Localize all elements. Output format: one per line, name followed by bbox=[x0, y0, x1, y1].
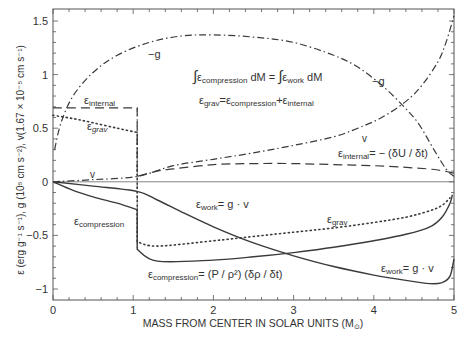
y-tick-label: −1 bbox=[35, 283, 48, 295]
x-tick-label: 3 bbox=[291, 304, 297, 316]
x-axis-label: MASS FROM CENTER IN SOLAR UNITS (M⊙) bbox=[143, 317, 364, 330]
x-tick-label: 5 bbox=[451, 304, 457, 316]
y-tick-label: 1.5 bbox=[33, 15, 48, 27]
x-tick-label: 4 bbox=[371, 304, 377, 316]
label-minus-g-right: −g bbox=[372, 75, 385, 87]
grav-equation: εgrav=εcompression+εinternal bbox=[199, 94, 314, 108]
label-eps-grav-top: εgrav bbox=[87, 120, 108, 134]
chart: 0123451.510.50−0.5−1 MASS FROM CENTER IN… bbox=[0, 0, 464, 337]
y-tick-label: 0.5 bbox=[33, 122, 48, 134]
label-eps-grav-bottom: εgrav bbox=[327, 213, 347, 227]
label-eps-work-right: εwork= g · v bbox=[381, 262, 434, 276]
label-eps-compression-def: εcompression= (P / ρ²) (δρ / δt) bbox=[148, 268, 282, 282]
y-tick-label: 1 bbox=[42, 69, 48, 81]
label-v-left: v bbox=[90, 169, 95, 180]
label-eps-compression-left: εcompression bbox=[74, 215, 124, 229]
y-tick-label: 0 bbox=[42, 176, 48, 188]
label-v-right: v bbox=[362, 133, 367, 144]
x-tick-label: 2 bbox=[210, 304, 216, 316]
series-internal bbox=[53, 108, 454, 177]
x-tick-label: 1 bbox=[130, 304, 136, 316]
label-eps-work-mid: εwork= g · v bbox=[196, 198, 249, 212]
y-axis-label: ε (erg g⁻¹ s⁻¹), g (10⁵ cm s⁻²), v(1.67 … bbox=[15, 45, 26, 275]
x-tick-label: 0 bbox=[50, 304, 56, 316]
label-eps-internal: εinternal bbox=[84, 94, 115, 108]
y-tick-label: −0.5 bbox=[26, 229, 48, 241]
label-eps-internal-def: εinternal= − (δU / δt) bbox=[338, 147, 428, 161]
integral-equation: ∫εcompressiondM =∫εworkdM bbox=[192, 67, 322, 85]
label-minus-g-left: −g bbox=[148, 48, 161, 60]
